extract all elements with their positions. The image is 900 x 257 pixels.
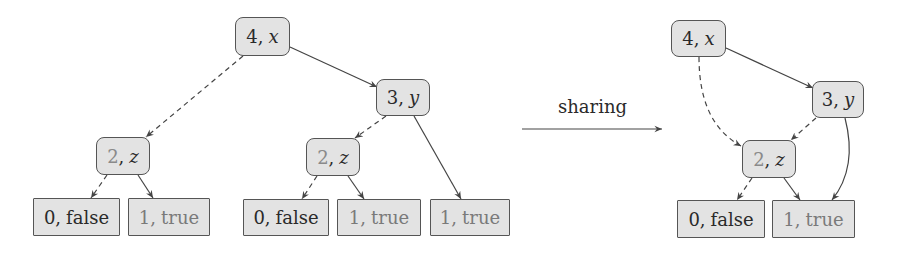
node-index: 4 — [682, 28, 693, 49]
node-2-z: 2,z — [96, 137, 150, 175]
leaf-0-false: 0,false — [33, 198, 120, 236]
node-index: 3 — [822, 89, 833, 110]
leaf-index: 0 — [253, 207, 264, 228]
leaf-index: 0 — [688, 209, 699, 230]
leaf-index: 1 — [349, 207, 360, 228]
node-index: 4 — [246, 26, 257, 47]
edge-3y-to-2z-dashed — [791, 118, 816, 140]
node-variable: z — [339, 147, 348, 168]
separator: , — [150, 207, 156, 228]
edge-2z-to-1true-solid — [138, 175, 153, 198]
leaf-index: 0 — [44, 207, 55, 228]
separator: , — [119, 146, 125, 167]
edge-2z-to-0false-dashed — [302, 176, 317, 199]
node-3-y: 3,y — [376, 79, 430, 116]
node-index: 2 — [107, 146, 118, 167]
node-index: 3 — [387, 87, 398, 108]
edge-2z-to-0false-dashed — [91, 175, 107, 198]
leaf-index: 1 — [783, 209, 794, 230]
leaf-value: true — [161, 207, 199, 228]
separator: , — [265, 207, 271, 228]
leaf-value: false — [711, 209, 754, 230]
node-index: 2 — [753, 149, 764, 170]
separator: , — [700, 209, 706, 230]
leaf-0-false: 0,false — [243, 199, 329, 236]
separator: , — [398, 87, 404, 108]
leaf-1-true: 1,true — [772, 200, 855, 238]
separator: , — [258, 26, 264, 47]
node-4-x: 4,x — [671, 20, 726, 57]
leaf-1-true: 1,true — [128, 198, 210, 236]
separator: , — [765, 149, 771, 170]
leaf-value: true — [806, 209, 844, 230]
separator: , — [833, 89, 839, 110]
edge-2z-to-1true-solid — [348, 176, 364, 199]
edge-4x-to-3y-solid — [290, 47, 377, 87]
node-2-z: 2,z — [306, 138, 360, 176]
leaf-value: false — [66, 207, 109, 228]
edge-4x-to-2z-dashed — [146, 56, 243, 137]
edge-3y-to-1true-solid-curve — [832, 118, 849, 200]
separator: , — [694, 28, 700, 49]
leaf-value: true — [462, 207, 500, 228]
node-index: 2 — [317, 147, 328, 168]
node-variable: x — [269, 26, 279, 47]
node-2-z: 2,z — [742, 140, 796, 178]
separator: , — [360, 207, 366, 228]
node-4-x: 4,x — [235, 17, 290, 56]
edge-3y-to-1true-solid — [414, 116, 461, 199]
node-variable: z — [775, 149, 784, 170]
leaf-0-false: 0,false — [677, 200, 765, 238]
bdd-sharing-diagram: 4,x 3,y 2,z 2,z 0,false 1,true 0,false 1… — [0, 0, 900, 257]
leaf-value: true — [371, 207, 409, 228]
leaf-index: 1 — [440, 207, 451, 228]
edge-2z-to-0false-dashed — [737, 178, 752, 200]
node-3-y: 3,y — [812, 81, 864, 118]
edge-2z-to-1true-solid — [784, 178, 800, 200]
leaf-1-true: 1,true — [337, 199, 421, 236]
leaf-1-true: 1,true — [430, 199, 510, 236]
separator: , — [329, 147, 335, 168]
separator: , — [55, 207, 61, 228]
separator: , — [451, 207, 457, 228]
leaf-value: false — [276, 207, 319, 228]
leaf-index: 1 — [139, 207, 150, 228]
node-variable: y — [844, 89, 854, 110]
separator: , — [795, 209, 801, 230]
sharing-label: sharing — [555, 96, 630, 117]
edge-4x-to-3y-solid — [726, 48, 813, 88]
edge-4x-to-2z-dashed-curve — [699, 57, 741, 146]
node-variable: z — [129, 146, 138, 167]
node-variable: y — [409, 87, 419, 108]
edge-3y-to-2z-dashed — [355, 116, 386, 138]
node-variable: x — [705, 28, 715, 49]
